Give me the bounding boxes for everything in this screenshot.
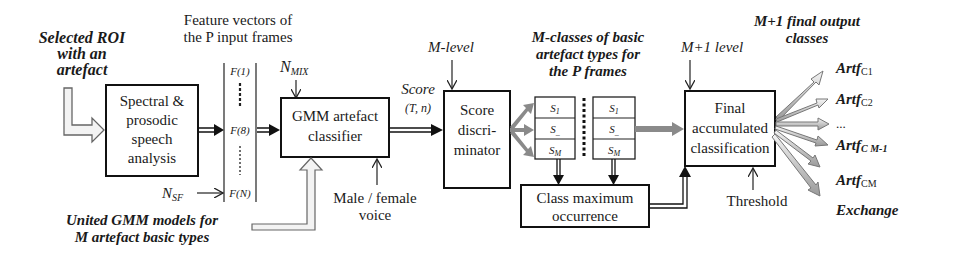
roi-label: Selected ROI with an artefact: [39, 29, 126, 79]
threshold-label: Threshold: [727, 193, 788, 209]
stack-to-classmax-arrows-icon: [553, 159, 619, 185]
score-line-3: minator: [454, 142, 501, 158]
features-to-gmm-arrow-icon: [257, 124, 280, 136]
m1-level-label: M+1 level: [680, 39, 743, 55]
gmm-line-1: GMM artefact: [292, 108, 379, 124]
output-artf-c1: ArtfC1: [835, 60, 873, 77]
final-line-2: accumulated: [692, 120, 768, 136]
output-artf-cm: ArtfCM: [835, 172, 877, 189]
score-args: (T, n): [405, 101, 431, 115]
pipeline-diagram: Selected ROI with an artefact Spectral &…: [0, 0, 953, 260]
voice-line-1: Male / female: [333, 190, 417, 206]
gmm-models-input-arrow-icon: [252, 158, 322, 230]
class-stack-first-frame: S1 S_ SM: [535, 97, 575, 159]
classmax-to-final-arrow-icon: [649, 166, 691, 208]
feature-item-1: F(1): [229, 65, 250, 78]
nmix-label: NMIX: [279, 58, 309, 77]
nsf-label: NSF: [161, 185, 184, 203]
classmax-line-2: occurrence: [552, 208, 618, 224]
voice-line-2: voice: [359, 207, 392, 223]
roi-label-line-3: artefact: [57, 61, 108, 79]
score-line-1: Score: [460, 102, 494, 118]
output-exchange: Exchange: [835, 202, 899, 218]
class-stack-last-frame: S1 S_ SM: [593, 97, 635, 159]
classes-to-final-arrow-icon: [635, 122, 684, 136]
score-to-classes-arrows-icon: [510, 103, 534, 157]
roi-label-line-2: with an: [57, 45, 106, 62]
m-level-label: M-level: [427, 39, 474, 55]
outputs-title-line-1: M+1 final output: [753, 13, 861, 29]
roi-label-line-1: Selected ROI: [39, 29, 126, 46]
models-label-line-2: M artefact basic types: [74, 229, 210, 245]
features-title-line-1: Feature vectors of: [184, 12, 292, 28]
spectral-line-1: Spectral &: [120, 93, 185, 109]
classmax-line-1: Class maximum: [536, 190, 633, 206]
spectral-line-3: speech: [132, 131, 173, 147]
final-line-3: classification: [690, 140, 770, 156]
output-artf-cm-1: ArtfC M-1: [835, 137, 887, 154]
models-label-line-1: United GMM models for: [66, 212, 218, 228]
classes-title-line-3: the P frames: [549, 63, 627, 79]
feature-item-n: F(N): [228, 187, 251, 200]
spectral-line-4: analysis: [128, 150, 176, 166]
classes-title-line-1: M-classes of basic: [531, 29, 645, 45]
gmm-to-score-arrow-icon: [389, 124, 443, 136]
feature-item-8: F(8): [229, 124, 250, 137]
gmm-line-2: classifier: [308, 128, 362, 144]
output-fan-arrows-icon: [772, 71, 829, 196]
feature-vectors-title: Feature vectors of the P input frames: [183, 12, 292, 45]
output-artf-c2: ArtfC2: [835, 91, 873, 108]
score-line-2: discri-: [458, 122, 496, 138]
output-ellipsis: ...: [836, 116, 846, 131]
final-line-1: Final: [715, 100, 746, 116]
features-title-line-2: the P input frames: [183, 29, 292, 45]
outputs-title-line-2: classes: [786, 30, 829, 46]
classes-title-line-2: artefact types for: [536, 46, 640, 62]
spectral-line-2: prosodic: [126, 112, 178, 128]
spectral-to-features-arrow-icon: [198, 124, 224, 136]
roi-input-arrow-icon: [64, 88, 104, 142]
score-label: Score: [401, 81, 435, 97]
